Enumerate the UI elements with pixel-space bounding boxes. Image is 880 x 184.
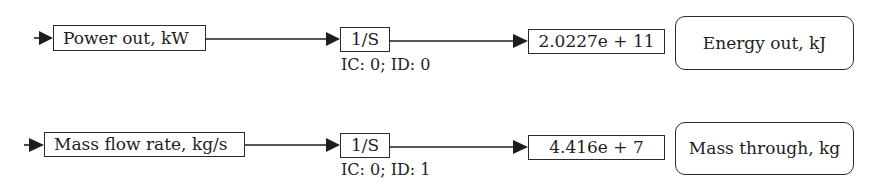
display-value: 2.0227e + 11 (538, 33, 654, 50)
integrator-label: 1/S (351, 137, 379, 154)
source-label: Mass flow rate, kg/s (54, 136, 228, 153)
display-block-energy[interactable]: 2.0227e + 11 (528, 29, 665, 54)
integrator-block[interactable]: 1/S (340, 133, 390, 158)
arrowhead-icon (326, 32, 340, 46)
arrowhead-icon (513, 140, 528, 154)
input-arrowhead-icon (29, 138, 44, 152)
source-block-power-out[interactable]: Power out, kW (53, 25, 206, 51)
integrator-label: 1/S (351, 31, 379, 48)
output-label: Mass through, kg (689, 140, 840, 157)
display-value: 4.416e + 7 (549, 139, 644, 156)
arrowhead-icon (326, 138, 340, 152)
integrator-params: IC: 0; ID: 1 (341, 162, 431, 178)
arrowhead-icon (513, 34, 528, 48)
display-block-mass[interactable]: 4.416e + 7 (528, 135, 665, 160)
integrator-params: IC: 0; ID: 0 (341, 57, 431, 73)
output-port-energy-out[interactable]: Energy out, kJ (675, 16, 854, 70)
source-block-mass-flow-rate[interactable]: Mass flow rate, kg/s (44, 132, 245, 157)
output-port-mass-through[interactable]: Mass through, kg (675, 122, 854, 175)
integrator-block[interactable]: 1/S (340, 27, 390, 52)
output-label: Energy out, kJ (703, 35, 826, 52)
source-label: Power out, kW (63, 30, 189, 47)
block-diagram-canvas: Power out, kW 1/S IC: 0; ID: 0 2.0227e +… (0, 0, 880, 184)
input-arrowhead-icon (39, 31, 53, 45)
